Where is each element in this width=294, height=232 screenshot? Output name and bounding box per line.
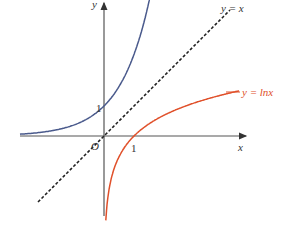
ln-label: y = lnx <box>241 86 273 98</box>
chart: y x O 1 1 y = x y = lnx <box>0 0 294 232</box>
x-axis-label: x <box>237 141 243 153</box>
identity-line <box>38 10 230 202</box>
y-axis-label: y <box>91 0 97 10</box>
identity-label: y = x <box>220 2 244 14</box>
y-tick-label-1: 1 <box>96 102 102 114</box>
exp-curve <box>20 0 151 134</box>
x-tick-label-1: 1 <box>131 142 137 154</box>
origin-label: O <box>91 140 99 152</box>
ln-curve <box>106 91 239 221</box>
